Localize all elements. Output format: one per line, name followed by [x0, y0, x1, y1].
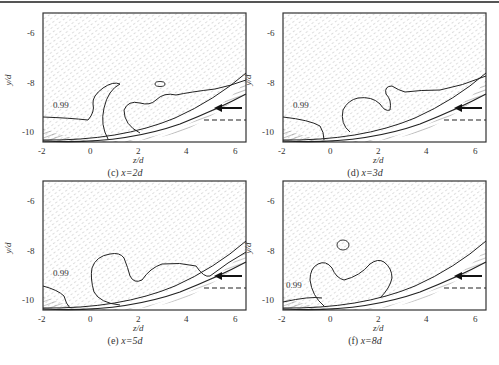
x-axis-label-c: z/d: [133, 155, 144, 165]
svg-text:-8: -8: [267, 246, 275, 256]
panel-f: 0.99 -2 0 2 4 6 -6 -8 -10 z/d y/d (f) x=…: [240, 168, 490, 350]
svg-text:-10: -10: [22, 127, 34, 137]
y-ticks-e: -6 -8 -10: [22, 196, 35, 305]
svg-text:4: 4: [184, 314, 189, 324]
svg-text:-2: -2: [38, 146, 46, 156]
y-axis-label-f: y/d: [243, 243, 253, 254]
svg-text:-8: -8: [27, 78, 35, 88]
svg-text:0: 0: [88, 314, 93, 324]
vector-plot-f: 0.99 -2 0 2 4 6 -6 -8 -10: [240, 168, 490, 350]
svg-text:-2: -2: [38, 314, 46, 324]
panel-e: 0.99 -2 0 2 4 6 -6 -8 -10 z/d y/d (e) x=…: [0, 168, 250, 350]
svg-text:-6: -6: [267, 28, 275, 38]
svg-text:-10: -10: [22, 295, 34, 305]
contour-label-c: 0.99: [53, 100, 69, 110]
svg-text:0: 0: [328, 314, 333, 324]
svg-text:-10: -10: [262, 295, 274, 305]
y-axis-label-c: y/d: [3, 75, 13, 86]
svg-text:4: 4: [184, 146, 189, 156]
svg-text:6: 6: [473, 146, 478, 156]
svg-text:-8: -8: [27, 246, 35, 256]
contour-label-e: 0.99: [53, 268, 69, 278]
svg-text:4: 4: [424, 146, 429, 156]
svg-text:6: 6: [233, 314, 238, 324]
svg-text:-2: -2: [278, 314, 286, 324]
svg-text:6: 6: [233, 146, 238, 156]
svg-text:-8: -8: [267, 78, 275, 88]
caption-e: (e) x=5d: [0, 335, 250, 346]
x-axis-label-d: z/d: [373, 155, 384, 165]
y-ticks-c: -6 -8 -10: [22, 28, 35, 137]
svg-text:6: 6: [473, 314, 478, 324]
panel-d: 0.99 -2 0 2 4 6 -6 -8 -10 z/d y/d (d) x=…: [240, 0, 490, 182]
vector-plot-e: 0.99 -2 0 2 4 6 -6 -8 -10: [0, 168, 250, 350]
svg-text:-6: -6: [27, 28, 35, 38]
panel-c: 0.99 -2 0 2 4 6 -6 -8 -10 z/d y/d (c) x=…: [0, 0, 250, 182]
vector-plot-d: 0.99 -2 0 2 4 6 -6 -8 -10: [240, 0, 490, 182]
svg-text:-6: -6: [267, 196, 275, 206]
contour-label-d: 0.99: [293, 100, 309, 110]
svg-text:0: 0: [328, 146, 333, 156]
svg-text:-6: -6: [27, 196, 35, 206]
svg-text:-10: -10: [262, 127, 274, 137]
y-ticks-f: -6 -8 -10: [262, 196, 275, 305]
y-axis-label-e: y/d: [3, 243, 13, 254]
contour-label-f: 0.99: [286, 280, 302, 290]
x-axis-label-f: z/d: [373, 323, 384, 333]
svg-text:0: 0: [88, 146, 93, 156]
y-ticks-d: -6 -8 -10: [262, 28, 275, 137]
x-axis-label-e: z/d: [133, 323, 144, 333]
caption-f: (f) x=8d: [240, 335, 490, 346]
y-axis-label-d: y/d: [243, 75, 253, 86]
svg-text:4: 4: [424, 314, 429, 324]
vector-plot-c: 0.99 -2 0 2 4 6 -6 -8 -10: [0, 0, 250, 182]
svg-text:-2: -2: [278, 146, 286, 156]
